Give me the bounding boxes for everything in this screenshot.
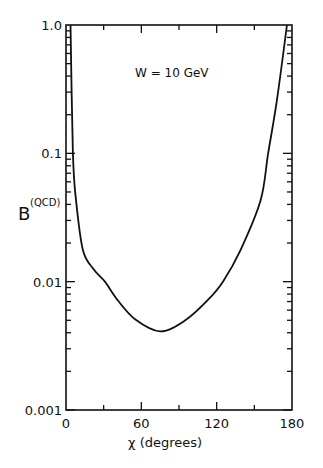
y-tick-labels: 0.0010.010.11.0	[25, 18, 62, 418]
x-tick-labels: 060120180	[62, 416, 305, 431]
chart: 0.0010.010.11.0 060120180 W = 10 GeV χ (…	[0, 0, 323, 468]
y-tick-label: 0.1	[41, 146, 62, 161]
x-tick-label: 120	[204, 416, 229, 431]
plot-frame	[66, 25, 292, 410]
x-tick-label: 0	[62, 416, 70, 431]
y-axis-label-superscript: (QCD)	[30, 197, 60, 208]
y-axis-label: B	[18, 203, 30, 224]
x-tick-label: 60	[133, 416, 150, 431]
x-axis-label: χ (degrees)	[128, 435, 202, 450]
axis-ticks	[66, 25, 292, 410]
x-tick-label: 180	[280, 416, 305, 431]
y-tick-label: 0.001	[25, 403, 62, 418]
y-tick-label: 0.01	[33, 275, 62, 290]
y-tick-label: 1.0	[41, 18, 62, 33]
annotation-label: W = 10 GeV	[135, 66, 209, 80]
